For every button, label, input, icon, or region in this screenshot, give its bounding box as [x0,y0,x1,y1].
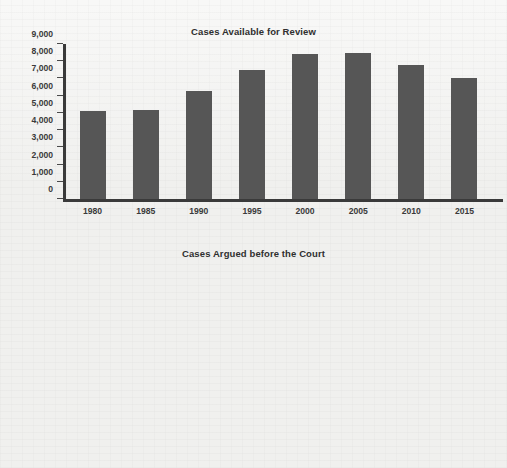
bar-slot-2005: 2005 [332,44,385,199]
x-axis-tick-label: 1985 [136,206,155,216]
bar-slot-2015: 2015 [438,44,491,199]
y-axis-tick-label: 3,000 [31,132,53,142]
y-axis-tick-label: 4,000 [31,115,53,125]
bar-1995 [239,70,265,199]
x-axis-tick-label: 2000 [296,206,315,216]
x-axis-tick-label: 1990 [189,206,208,216]
y-axis-tick-label: 5,000 [31,98,53,108]
bar-2010 [398,65,424,199]
bar-slot-2000: 2000 [279,44,332,199]
y-axis-tick-label: 9,000 [31,29,53,39]
bar-slot-1990: 1990 [172,44,225,199]
y-axis-tick [57,198,63,199]
y-axis-tick [57,181,63,182]
chart-cases-argued-before-the-court: Cases Argued before the Court 1980198519… [0,234,507,468]
y-axis-tick-label: 7,000 [31,63,53,73]
bar-2000 [292,54,318,199]
chart-title-bottom: Cases Argued before the Court [0,248,507,259]
y-axis-tick [57,77,63,78]
bar-slot-2010: 2010 [385,44,438,199]
y-axis-tick [57,43,63,44]
y-axis-tick [57,60,63,61]
bar-slot-1995: 1995 [225,44,278,199]
y-axis-tick-label: 0 [48,184,53,194]
y-axis-tick [57,112,63,113]
y-axis-tick-label: 8,000 [31,46,53,56]
x-axis-tick-label: 1995 [242,206,261,216]
y-axis-tick [57,164,63,165]
x-axis-tick-label: 2005 [349,206,368,216]
y-axis-tick [57,146,63,147]
bar-2005 [345,53,371,199]
bar-group-top: 19801985199019952000200520102015 [66,44,491,199]
bar-slot-1980: 1980 [66,44,119,199]
bar-1985 [133,110,159,199]
x-axis-tick-label: 2010 [402,206,421,216]
bar-slot-1985: 1985 [119,44,172,199]
x-axis-line-top [63,199,503,202]
bar-1990 [186,91,212,200]
x-axis-tick-label: 1980 [83,206,102,216]
y-axis-tick [57,129,63,130]
chart-cases-available-for-review: Cases Available for Review 1980198519901… [0,0,507,234]
chart-title-top: Cases Available for Review [0,26,507,37]
x-axis-tick-label: 2015 [455,206,474,216]
y-axis-tick [57,95,63,96]
plot-area-top: 19801985199019952000200520102015 01,0002… [63,44,491,199]
bar-1980 [80,111,106,199]
bar-2015 [451,78,477,199]
y-axis-tick-label: 2,000 [31,150,53,160]
y-axis-tick-label: 1,000 [31,167,53,177]
y-axis-tick-label: 6,000 [31,81,53,91]
